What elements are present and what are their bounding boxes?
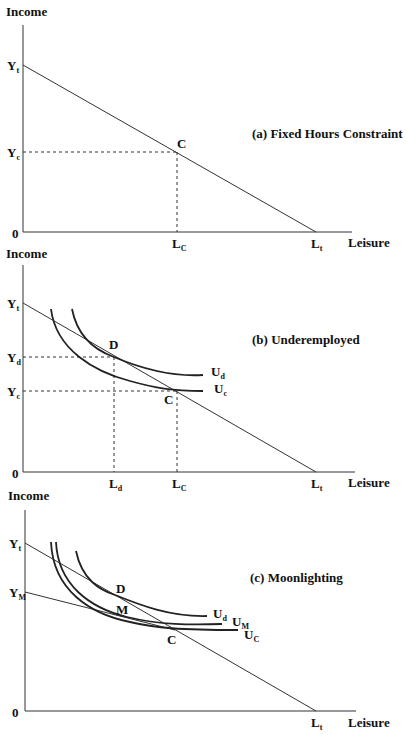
x-axis-label: Leisure [348, 475, 390, 490]
origin-label: 0 [12, 705, 19, 720]
curve-label-uc: Uc [214, 381, 227, 398]
y-axis-label: Income [8, 488, 49, 503]
y-tick-yd: Yd [7, 350, 21, 367]
y-axis-label: Income [6, 246, 47, 261]
point-d: D [116, 581, 125, 596]
panel-c: Income 0 Yt YM Lt Leisure D M C Ud UM UC… [8, 488, 390, 732]
y-tick-yc: Yc [7, 145, 20, 162]
x-tick-lc: LC [172, 476, 187, 493]
panel-title: (a) Fixed Hours Constraint [252, 126, 403, 141]
point-c: C [164, 392, 173, 407]
point-c: C [177, 136, 186, 151]
x-tick-lt: Lt [311, 236, 323, 253]
panel-b: Income 0 Yt Yd Yc Ld LC Lt Leisure D C U… [6, 246, 390, 493]
x-tick-lc: LC [172, 236, 187, 253]
x-axis-label: Leisure [348, 715, 390, 730]
budget-line [25, 543, 316, 711]
x-tick-ld: Ld [109, 476, 123, 493]
point-c: C [167, 632, 176, 647]
curve-label-ud: Ud [211, 364, 225, 381]
curve-label-uc: UC [244, 627, 259, 644]
indifference-curve-uc [51, 542, 238, 630]
indifference-curve-uc [51, 309, 203, 391]
x-tick-lt: Lt [311, 476, 323, 493]
indifference-curve-um [56, 542, 222, 624]
y-axis-label: Income [6, 4, 47, 19]
point-m: M [116, 602, 128, 617]
moonlighting-budget-line [25, 592, 175, 630]
y-tick-yt: Yt [9, 536, 21, 553]
point-d: D [109, 337, 118, 352]
y-tick-yc: Yc [7, 384, 20, 401]
y-tick-ym: YM [9, 585, 26, 602]
curve-label-ud: Ud [213, 606, 227, 623]
budget-line [23, 65, 316, 232]
panel-a: Income 0 Yt Yc LC Lt Leisure C (a) Fixed… [6, 4, 403, 253]
y-tick-yt: Yt [7, 58, 19, 75]
panel-title: (b) Underemployed [252, 332, 361, 347]
x-axis-label: Leisure [348, 235, 390, 250]
y-tick-yt: Yt [7, 296, 19, 313]
origin-label: 0 [12, 226, 19, 241]
labor-leisure-diagram: Income 0 Yt Yc LC Lt Leisure C (a) Fixed… [0, 0, 406, 735]
origin-label: 0 [12, 466, 19, 481]
panel-title: (c) Moonlighting [250, 570, 343, 585]
x-tick-lt: Lt [311, 715, 323, 732]
budget-line [23, 303, 316, 472]
